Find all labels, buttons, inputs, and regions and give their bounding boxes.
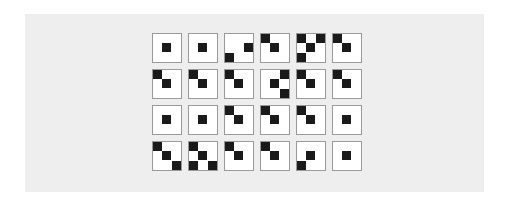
filled-square: [270, 151, 279, 160]
filled-square: [198, 43, 207, 52]
pattern-grid: [152, 33, 362, 171]
filled-square: [198, 115, 207, 124]
filled-square: [306, 115, 315, 124]
filled-square: [297, 34, 306, 43]
filled-square: [225, 142, 234, 151]
filled-square: [306, 151, 315, 160]
filled-square: [270, 43, 279, 52]
pattern-cell[interactable]: [188, 105, 218, 135]
pattern-cell[interactable]: [296, 105, 326, 135]
pattern-cell[interactable]: [152, 69, 182, 99]
pattern-cell[interactable]: [224, 105, 254, 135]
filled-square: [306, 79, 315, 88]
filled-square: [270, 79, 279, 88]
filled-square: [208, 161, 217, 170]
filled-square: [270, 115, 279, 124]
filled-square: [162, 151, 171, 160]
filled-square: [225, 106, 234, 115]
filled-square: [225, 70, 234, 79]
filled-square: [198, 151, 207, 160]
filled-square: [244, 43, 253, 52]
pattern-cell[interactable]: [260, 69, 290, 99]
filled-square: [297, 53, 306, 62]
filled-square: [342, 151, 351, 160]
filled-square: [225, 53, 234, 62]
pattern-cell[interactable]: [260, 33, 290, 63]
pattern-cell[interactable]: [332, 105, 362, 135]
filled-square: [162, 115, 171, 124]
pattern-cell[interactable]: [296, 69, 326, 99]
pattern-cell[interactable]: [296, 33, 326, 63]
pattern-cell[interactable]: [152, 33, 182, 63]
pattern-cell[interactable]: [260, 105, 290, 135]
filled-square: [261, 34, 270, 43]
filled-square: [153, 70, 162, 79]
filled-square: [342, 115, 351, 124]
pattern-cell[interactable]: [188, 33, 218, 63]
filled-square: [172, 161, 181, 170]
filled-square: [153, 142, 162, 151]
filled-square: [297, 70, 306, 79]
filled-square: [280, 70, 289, 79]
filled-square: [234, 115, 243, 124]
filled-square: [162, 43, 171, 52]
pattern-cell[interactable]: [332, 33, 362, 63]
pattern-cell[interactable]: [188, 69, 218, 99]
filled-square: [297, 106, 306, 115]
filled-square: [189, 142, 198, 151]
pattern-cell[interactable]: [296, 141, 326, 171]
filled-square: [342, 43, 351, 52]
filled-square: [189, 70, 198, 79]
filled-square: [306, 43, 315, 52]
filled-square: [316, 34, 325, 43]
filled-square: [198, 79, 207, 88]
pattern-cell[interactable]: [224, 69, 254, 99]
filled-square: [297, 161, 306, 170]
filled-square: [261, 142, 270, 151]
pattern-cell[interactable]: [260, 141, 290, 171]
pattern-cell[interactable]: [224, 141, 254, 171]
pattern-cell[interactable]: [224, 33, 254, 63]
pattern-cell[interactable]: [332, 141, 362, 171]
pattern-cell[interactable]: [152, 105, 182, 135]
filled-square: [189, 161, 198, 170]
filled-square: [261, 106, 270, 115]
filled-square: [280, 89, 289, 98]
pattern-cell[interactable]: [332, 69, 362, 99]
filled-square: [333, 70, 342, 79]
filled-square: [234, 151, 243, 160]
filled-square: [333, 34, 342, 43]
filled-square: [162, 79, 171, 88]
pattern-cell[interactable]: [152, 141, 182, 171]
filled-square: [342, 79, 351, 88]
pattern-cell[interactable]: [188, 141, 218, 171]
filled-square: [234, 79, 243, 88]
